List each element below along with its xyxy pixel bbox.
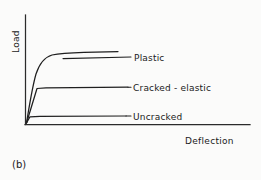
figure-caption: (b) [12,159,26,170]
label-cracked-elastic: Cracked - elastic [133,83,211,93]
x-axis-label: Deflection [185,136,234,146]
label-uncracked: Uncracked [133,112,182,122]
y-axis-label: Load [11,30,21,53]
figure-background [0,0,261,180]
label-plastic: Plastic [134,53,165,63]
figure-screenshot: Load Deflection Plastic Cracked - elasti… [0,0,261,180]
load-deflection-figure: Load Deflection Plastic Cracked - elasti… [0,0,261,180]
